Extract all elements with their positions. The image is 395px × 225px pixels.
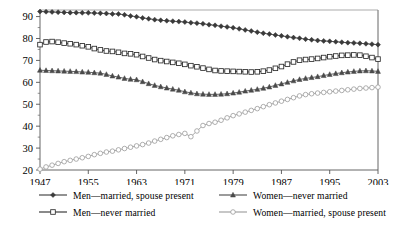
data-point-marker bbox=[104, 49, 109, 54]
data-point-marker bbox=[207, 67, 212, 72]
y-tick-label-20: 20 bbox=[23, 165, 34, 176]
data-point-marker bbox=[44, 165, 49, 170]
series-markers bbox=[38, 9, 381, 47]
data-point-marker bbox=[321, 55, 326, 60]
legend-entry-2[interactable]: Women—never married bbox=[218, 187, 348, 203]
data-point-marker bbox=[122, 12, 127, 17]
axis-lines bbox=[40, 10, 378, 170]
data-point-marker bbox=[207, 22, 212, 27]
data-point-marker bbox=[297, 94, 302, 99]
data-point-marker bbox=[80, 43, 85, 48]
y-tick-label-80: 80 bbox=[23, 33, 34, 44]
data-point-marker bbox=[201, 66, 206, 71]
y-tick-label-70: 70 bbox=[23, 55, 34, 66]
x-tick-label-1971: 1971 bbox=[174, 177, 195, 186]
data-point-marker bbox=[303, 37, 308, 42]
y-tick-label-90: 90 bbox=[23, 11, 34, 22]
data-point-marker bbox=[158, 18, 163, 23]
data-point-marker bbox=[56, 40, 61, 45]
data-point-marker bbox=[122, 51, 127, 56]
data-point-marker bbox=[189, 134, 194, 139]
data-point-marker bbox=[309, 37, 314, 42]
data-point-marker bbox=[219, 69, 224, 74]
data-point-marker bbox=[321, 38, 326, 43]
data-point-marker bbox=[333, 89, 338, 94]
data-point-marker bbox=[255, 70, 260, 75]
data-point-marker bbox=[51, 193, 56, 198]
data-point-marker bbox=[231, 25, 236, 30]
data-point-marker bbox=[51, 210, 56, 215]
legend-entry-1[interactable]: Men—never married bbox=[38, 204, 155, 220]
data-point-marker bbox=[255, 30, 260, 35]
data-point-marker bbox=[249, 108, 254, 113]
data-point-marker bbox=[364, 54, 369, 59]
data-point-marker bbox=[352, 53, 357, 58]
data-point-marker bbox=[225, 69, 230, 74]
data-point-marker bbox=[195, 129, 200, 134]
data-point-marker bbox=[56, 10, 61, 15]
data-point-marker bbox=[74, 10, 79, 15]
data-point-marker bbox=[86, 45, 91, 50]
data-point-marker bbox=[291, 35, 296, 40]
legend-entry-0[interactable]: Men—married, spouse present bbox=[38, 187, 194, 203]
data-point-marker bbox=[346, 53, 351, 58]
data-point-marker bbox=[315, 91, 320, 96]
data-point-marker bbox=[363, 41, 368, 46]
data-point-marker bbox=[249, 70, 254, 75]
data-point-marker bbox=[267, 68, 272, 73]
data-point-marker bbox=[201, 123, 206, 128]
data-point-marker bbox=[291, 95, 296, 100]
data-point-marker bbox=[98, 151, 103, 156]
data-point-marker bbox=[134, 14, 139, 19]
x-tick-label-1979: 1979 bbox=[223, 177, 244, 186]
x-tick-label-1947: 1947 bbox=[30, 177, 51, 186]
line-chart: 2030405060708090 19471955196319711979198… bbox=[0, 0, 395, 185]
data-point-marker bbox=[370, 85, 375, 90]
data-point-marker bbox=[158, 137, 163, 142]
data-point-marker bbox=[86, 10, 91, 15]
data-point-marker bbox=[170, 134, 175, 139]
data-point-marker bbox=[177, 61, 182, 66]
data-point-marker bbox=[62, 41, 67, 46]
series-markers bbox=[38, 85, 381, 172]
data-point-marker bbox=[285, 97, 290, 102]
data-point-marker bbox=[164, 135, 169, 140]
data-point-marker bbox=[339, 40, 344, 45]
data-point-marker bbox=[188, 20, 193, 25]
data-point-marker bbox=[303, 57, 308, 62]
data-point-marker bbox=[128, 52, 133, 57]
data-point-marker bbox=[249, 29, 254, 34]
data-point-marker bbox=[273, 101, 278, 106]
data-point-marker bbox=[376, 42, 381, 47]
data-point-marker bbox=[62, 10, 67, 15]
data-point-marker bbox=[291, 60, 296, 65]
data-point-marker bbox=[152, 57, 157, 62]
legend-marker-filled-triangle-icon bbox=[218, 189, 248, 201]
data-point-marker bbox=[92, 11, 97, 16]
data-point-marker bbox=[346, 87, 351, 92]
data-point-marker bbox=[146, 56, 151, 61]
data-point-marker bbox=[327, 39, 332, 44]
data-point-marker bbox=[200, 21, 205, 26]
data-point-marker bbox=[231, 210, 236, 215]
legend-entry-3[interactable]: Women—married, spouse present bbox=[218, 204, 386, 220]
data-point-marker bbox=[170, 19, 175, 24]
data-point-marker bbox=[116, 50, 121, 55]
data-point-marker bbox=[158, 58, 163, 63]
data-point-marker bbox=[134, 144, 139, 149]
data-point-marker bbox=[110, 149, 115, 154]
data-point-marker bbox=[273, 66, 278, 71]
legend-marker-open-square-icon bbox=[38, 206, 68, 218]
legend-label: Women—never married bbox=[253, 190, 348, 201]
chart-legend: Men—married, spouse presentMen—never mar… bbox=[0, 186, 395, 225]
data-point-marker bbox=[333, 54, 338, 59]
data-point-marker bbox=[237, 26, 242, 31]
data-point-marker bbox=[56, 161, 61, 166]
series-line bbox=[40, 12, 378, 45]
x-tick-label-1963: 1963 bbox=[126, 177, 147, 186]
data-point-marker bbox=[243, 110, 248, 115]
plot-area: 2030405060708090 19471955196319711979198… bbox=[0, 0, 395, 185]
data-point-marker bbox=[194, 21, 199, 26]
data-point-marker bbox=[267, 102, 272, 107]
data-point-marker bbox=[358, 86, 363, 91]
